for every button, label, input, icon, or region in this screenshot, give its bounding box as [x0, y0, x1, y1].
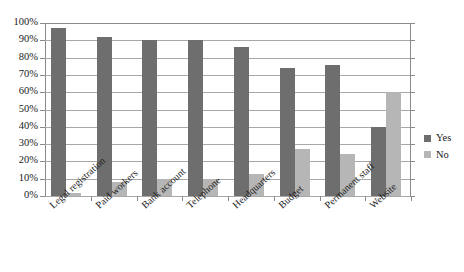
y-axis-tick-right [410, 196, 415, 197]
y-axis-tick-right [410, 23, 415, 24]
legend-item[interactable]: No [424, 150, 451, 161]
x-axis-category-label: Website [368, 182, 398, 211]
x-axis-category-label: Telephone [185, 175, 223, 210]
y-axis-tick-right [410, 75, 415, 76]
y-axis-tick-right [410, 127, 415, 128]
y-axis-tick-right [410, 161, 415, 162]
y-axis-tick-right [410, 40, 415, 41]
y-axis-tick-right [410, 92, 415, 93]
y-axis-tick-right [410, 58, 415, 59]
legend-item[interactable]: Yes [424, 133, 451, 144]
y-axis-tick-right [410, 144, 415, 145]
x-axis-category-label: Headquarters [231, 167, 277, 210]
y-axis-tick-right [410, 179, 415, 180]
chart-page: 0%10%20%30%40%50%60%70%80%90%100% Legal … [0, 0, 464, 272]
x-axis-category-label: Paid workers [94, 168, 140, 211]
legend-swatch-icon [424, 135, 431, 142]
legend-label: No [436, 150, 449, 161]
x-axis-category-label: Budget [277, 184, 305, 211]
y-axis-tick-right [410, 110, 415, 111]
legend-swatch-icon [424, 151, 431, 158]
legend-label: Yes [436, 133, 451, 144]
chart-legend: YesNo [424, 133, 451, 166]
x-axis-category-labels: Legal registrationPaid workersBank accou… [0, 0, 464, 272]
x-axis-category-label: Bank account [140, 166, 187, 210]
